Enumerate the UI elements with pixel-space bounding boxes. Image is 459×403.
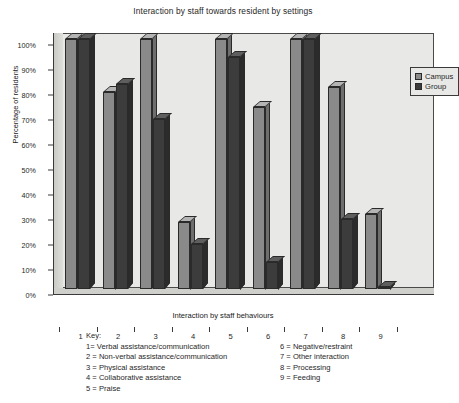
legend-label-group: Group: [425, 82, 446, 91]
y-axis-title: Percentage of residents: [11, 25, 20, 185]
bar-campus-5: [215, 39, 227, 289]
y-tick-label: 0%: [26, 291, 36, 300]
bar-front: [253, 107, 265, 290]
bar-group-9: [378, 287, 390, 290]
chart-legend: Campus Group: [410, 67, 459, 96]
y-tick-mark: [48, 70, 53, 71]
y-tick-label: 30%: [22, 216, 36, 225]
y-tick-mark: [48, 295, 53, 296]
y-tick-mark: [48, 45, 53, 46]
legend-label-campus: Campus: [425, 72, 453, 81]
key-item-4: 4 = Collaborative assistance: [86, 373, 262, 384]
y-tick-mark: [48, 245, 53, 246]
bar-group-3: [153, 119, 165, 289]
key-block: Key: 1= Verbal assistance/communication2…: [86, 331, 416, 395]
bar-side-face: [240, 51, 245, 289]
bar-campus-9: [365, 214, 377, 289]
key-item-4: 9 = Feeding: [280, 373, 410, 384]
bar-front: [290, 39, 302, 289]
key-item-3: 8 = Processing: [280, 363, 410, 374]
y-tick-mark: [48, 270, 53, 271]
key-item-2: 7 = Other interaction: [280, 352, 410, 363]
y-tick-label: 80%: [22, 91, 36, 100]
y-tick-label: 70%: [22, 116, 36, 125]
y-tick-mark: [48, 95, 53, 96]
key-item-5: 5 = Praise: [86, 384, 262, 395]
bar-front: [140, 39, 152, 289]
bar-campus-2: [103, 92, 115, 290]
y-tick-mark: [48, 195, 53, 196]
legend-item-group: Group: [415, 82, 453, 91]
bar-side-face: [353, 213, 358, 289]
y-tick-label: 100%: [18, 41, 36, 50]
bar-campus-7: [290, 39, 302, 289]
legend-swatch-group-icon: [415, 83, 422, 90]
bar-front: [328, 87, 340, 290]
bar-campus-1: [65, 39, 77, 289]
legend-item-campus: Campus: [415, 72, 453, 81]
y-tick-label: 50%: [22, 166, 36, 175]
key-column-left: 1= Verbal assistance/communication2 = No…: [86, 342, 262, 395]
bar-group-7: [303, 39, 315, 289]
bar-group-4: [191, 244, 203, 289]
bar-side-face: [203, 238, 208, 289]
legend-swatch-campus-icon: [415, 73, 422, 80]
y-tick-mark: [48, 120, 53, 121]
key-item-3: 3 = Physical assistance: [86, 363, 262, 374]
bar-front: [365, 214, 377, 289]
bar-group-2: [116, 84, 128, 289]
key-column-right: 6 = Negative/restraint7 = Other interact…: [280, 342, 410, 395]
chart-title: Interaction by staff towards resident by…: [0, 6, 446, 16]
bar-front: [228, 57, 240, 290]
y-tick-mark: [48, 220, 53, 221]
bar-campus-4: [178, 222, 190, 290]
y-tick-label: 10%: [22, 266, 36, 275]
key-heading: Key:: [86, 331, 416, 342]
bar-group-5: [228, 57, 240, 290]
bar-side-face: [165, 113, 170, 289]
key-item-2: 2 = Non-verbal assistance/communication: [86, 352, 262, 363]
bar-group-6: [266, 262, 278, 290]
bar-front: [116, 84, 128, 289]
bar-group-1: [78, 39, 90, 289]
bar-front: [103, 92, 115, 290]
x-axis-title: Interaction by staff behaviours: [0, 311, 446, 320]
key-item-1: 1= Verbal assistance/communication: [86, 342, 262, 353]
plot-area: 0%10%20%30%40%50%60%70%80%90%100% 123456…: [53, 33, 434, 295]
y-tick-mark: [48, 145, 53, 146]
x-tick-mark: [59, 327, 60, 332]
x-axis-line: [53, 294, 434, 295]
bar-front: [215, 39, 227, 289]
y-tick-label: 60%: [22, 141, 36, 150]
bar-front: [191, 244, 203, 289]
bar-front: [378, 287, 390, 290]
y-tick-label: 90%: [22, 66, 36, 75]
plot-left-wall: [53, 33, 63, 295]
y-axis-line: [53, 33, 54, 295]
bar-front: [65, 39, 77, 289]
bar-campus-6: [253, 107, 265, 290]
y-tick-label: 20%: [22, 241, 36, 250]
key-item-1: 6 = Negative/restraint: [280, 342, 410, 353]
y-tick-label: 40%: [22, 191, 36, 200]
y-tick-mark: [48, 170, 53, 171]
bar-front: [303, 39, 315, 289]
bar-front: [178, 222, 190, 290]
bar-group-8: [341, 219, 353, 289]
bar-side-face: [315, 33, 320, 289]
bar-side-face: [90, 33, 95, 289]
bar-campus-8: [328, 87, 340, 290]
bar-side-face: [128, 78, 133, 289]
bar-front: [153, 119, 165, 289]
bar-side-face: [377, 208, 382, 289]
bar-front: [341, 219, 353, 289]
bar-front: [78, 39, 90, 289]
bar-front: [266, 262, 278, 290]
bar-campus-3: [140, 39, 152, 289]
